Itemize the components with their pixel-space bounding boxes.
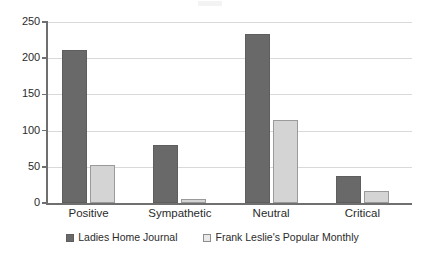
legend-swatch-dark-icon [66,234,74,242]
gridline [47,131,412,132]
x-axis-category-label: Critical [317,207,408,220]
gridline [47,58,412,59]
bar-chart-figure: 050100150200250 PositiveSympatheticNeutr… [0,0,425,256]
y-axis-tick-label: 100 [0,125,40,136]
x-axis-line [46,203,412,205]
bar [153,145,178,203]
bar [245,34,270,203]
x-axis-category-label: Positive [43,207,134,220]
legend-item-label: Ladies Home Journal [78,232,177,243]
scan-artifact [198,1,222,6]
y-axis-tick-labels: 050100150200250 [0,0,40,256]
legend-swatch-light-icon [203,234,211,242]
x-axis-category-label: Neutral [226,207,317,220]
gridline [47,94,412,95]
y-axis-tick-label: 50 [0,161,40,172]
plot-area [47,22,412,203]
bar [62,50,87,203]
chart-legend: Ladies Home JournalFrank Leslie's Popula… [0,232,425,243]
legend-item: Ladies Home Journal [66,232,177,243]
x-axis-category-label: Sympathetic [134,207,225,220]
bar [336,176,361,204]
y-axis-tick-label: 0 [0,197,40,208]
bar [90,165,115,203]
gridline [47,22,412,23]
bar [273,120,298,203]
legend-item-label: Frank Leslie's Popular Monthly [215,232,358,243]
y-axis-tick-label: 150 [0,88,40,99]
bar [364,191,389,203]
legend-item: Frank Leslie's Popular Monthly [203,232,358,243]
y-axis-line [46,21,48,204]
y-axis-tick-label: 250 [0,16,40,27]
y-axis-tick-label: 200 [0,52,40,63]
